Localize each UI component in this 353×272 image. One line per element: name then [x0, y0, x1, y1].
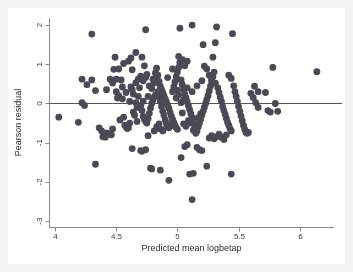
- scatter-plot-figure: [0, 0, 353, 272]
- pearson-residual-scatter-canvas: [0, 0, 353, 272]
